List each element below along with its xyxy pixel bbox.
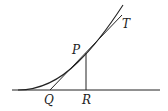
label-q: Q	[44, 93, 54, 107]
diagram-canvas: P T Q R	[0, 0, 168, 111]
tangent-diagram: P T Q R	[0, 0, 168, 111]
label-t: T	[122, 17, 131, 31]
curve	[18, 5, 123, 90]
label-p: P	[71, 43, 81, 57]
label-r: R	[81, 93, 91, 107]
